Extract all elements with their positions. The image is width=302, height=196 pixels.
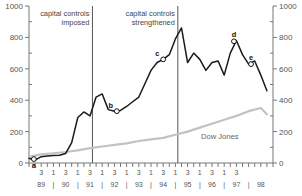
line-chart: 0200400600800100002004006008001000313131…: [0, 0, 302, 196]
x-quarter-label: 3: [210, 169, 214, 176]
x-year-label: 89: [37, 181, 45, 188]
x-quarter-label: 3: [137, 169, 141, 176]
point-marker-label-c: c: [155, 49, 159, 58]
x-quarter-label: 3: [39, 169, 43, 176]
x-quarter-label: 3: [186, 169, 190, 176]
point-marker-dot-d: [232, 39, 237, 44]
y-tick-label-left: 0: [19, 159, 24, 168]
x-year-separator: |: [223, 181, 225, 189]
x-year-separator: |: [126, 181, 128, 189]
point-marker-dot-e: [249, 62, 254, 67]
x-year-label: 93: [135, 181, 143, 188]
x-quarter-label: 1: [125, 169, 129, 176]
x-year-label: 91: [86, 181, 94, 188]
y-tick-label-right: 0: [279, 159, 284, 168]
x-quarter-label: 1: [100, 169, 104, 176]
x-quarter-label: 1: [198, 169, 202, 176]
x-quarter-label: 3: [112, 169, 116, 176]
y-tick-label-right: 200: [279, 128, 293, 137]
y-tick-label-right: 1000: [279, 2, 297, 11]
annotation-text-capital-controls-imposed: capital controls: [40, 9, 90, 18]
y-tick-label-left: 400: [10, 96, 24, 105]
x-year-label: 97: [233, 181, 241, 188]
x-year-label: 90: [62, 181, 70, 188]
y-tick-label-left: 1000: [5, 2, 23, 11]
point-marker-label-e: e: [249, 53, 253, 62]
x-year-separator: |: [101, 181, 103, 189]
x-quarter-label: 1: [76, 169, 80, 176]
x-year-separator: |: [77, 181, 79, 189]
x-quarter-label: 3: [88, 169, 92, 176]
x-year-separator: |: [174, 181, 176, 189]
x-year-label: 94: [159, 181, 167, 188]
x-year-label: 95: [184, 181, 192, 188]
x-quarter-label: 3: [64, 169, 68, 176]
x-year-label: 98: [257, 181, 265, 188]
annotation-text-capital-controls-strengthened: strengthened: [132, 18, 175, 27]
annotation-text-capital-controls-strengthened: capital controls: [126, 9, 176, 18]
point-marker-dot-c: [161, 57, 166, 62]
x-quarter-label: 1: [222, 169, 226, 176]
x-year-label: 92: [111, 181, 119, 188]
y-tick-label-left: 200: [10, 128, 24, 137]
point-marker-label-d: d: [232, 30, 237, 39]
x-year-separator: |: [52, 181, 54, 189]
x-year-separator: |: [150, 181, 152, 189]
y-tick-label-right: 600: [279, 65, 293, 74]
point-marker-label-b: b: [109, 101, 114, 110]
y-tick-label-right: 800: [279, 33, 293, 42]
chart-container: 0200400600800100002004006008001000313131…: [0, 0, 302, 196]
x-year-separator: |: [248, 181, 250, 189]
x-year-label: 96: [208, 181, 216, 188]
y-tick-label-left: 800: [10, 33, 24, 42]
x-quarter-label: 3: [161, 169, 165, 176]
x-quarter-label: 1: [173, 169, 177, 176]
y-tick-label-right: 400: [279, 96, 293, 105]
x-quarter-label: 3: [234, 169, 238, 176]
y-tick-label-left: 600: [10, 65, 24, 74]
point-marker-label-a: a: [32, 161, 37, 170]
x-quarter-label: 1: [51, 169, 55, 176]
x-quarter-label: 1: [149, 169, 153, 176]
annotation-text-capital-controls-imposed: imposed: [62, 18, 90, 27]
dow-jones-series-label: Dow Jones: [201, 132, 239, 141]
point-marker-dot-b: [114, 109, 119, 114]
x-year-separator: |: [199, 181, 201, 189]
